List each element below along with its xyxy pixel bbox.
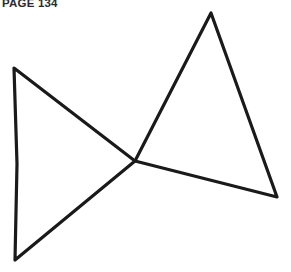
page-root: PAGE 134 [0, 0, 291, 272]
right-triangle-shape [135, 13, 277, 197]
two-triangles-figure [0, 0, 291, 272]
left-triangle-shape [14, 68, 135, 260]
